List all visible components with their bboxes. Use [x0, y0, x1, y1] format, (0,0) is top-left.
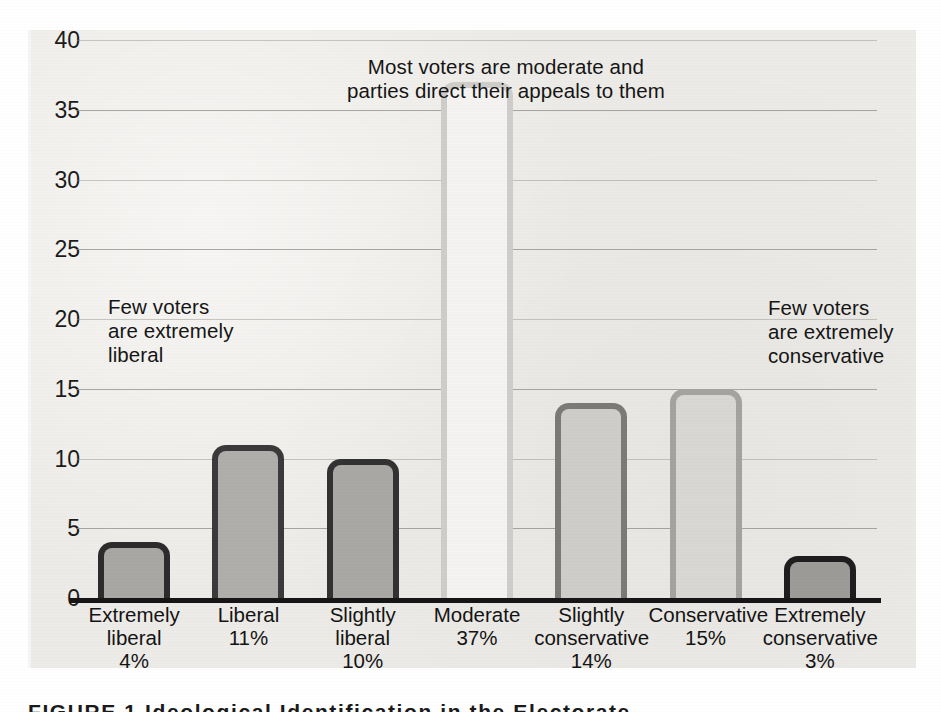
bar-slot	[98, 542, 170, 598]
bar-slot	[555, 403, 627, 598]
figure-container: 0510152025303540 Extremely liberal 4%Lib…	[0, 0, 941, 712]
bar[interactable]	[670, 389, 742, 598]
x-tick-label: Extremely liberal 4%	[77, 603, 191, 672]
bar-shadow	[340, 474, 400, 608]
bar-slot	[784, 556, 856, 598]
x-tick-label: Moderate 37%	[420, 603, 534, 649]
bar[interactable]	[327, 459, 399, 599]
bar-shadow	[568, 418, 628, 607]
x-tick-label: Extremely conservative 3%	[763, 603, 877, 672]
bar[interactable]	[98, 542, 170, 598]
bar-slot	[670, 389, 742, 598]
bar[interactable]	[212, 445, 284, 598]
x-tick-label: Conservative 15%	[648, 603, 762, 649]
x-tick-label: Liberal 11%	[191, 603, 305, 649]
x-axis-labels: Extremely liberal 4%Liberal 11%Slightly …	[77, 603, 877, 699]
annotation-most-voters-moderate: Most voters are moderate and parties dir…	[346, 55, 666, 103]
x-tick-label: Slightly liberal 10%	[306, 603, 420, 672]
bar[interactable]	[555, 403, 627, 598]
bar[interactable]	[441, 82, 513, 598]
bar[interactable]	[784, 556, 856, 598]
bar-shadow	[683, 404, 743, 607]
bar-slot	[212, 445, 284, 598]
annotation-few-voters-extremely-conservative: Few voters are extremely conservative	[768, 296, 893, 368]
y-axis-labels: 0510152025303540	[28, 40, 80, 598]
bar-slot	[441, 82, 513, 598]
x-tick-label: Slightly conservative 14%	[534, 603, 648, 672]
annotation-few-voters-extremely-liberal: Few voters are extremely liberal	[108, 295, 233, 367]
bar-slot	[327, 459, 399, 599]
bar-shadow	[454, 97, 514, 607]
figure-caption: FIGURE 1 Ideological Identification in t…	[28, 700, 918, 712]
bar-shadow	[225, 460, 285, 607]
